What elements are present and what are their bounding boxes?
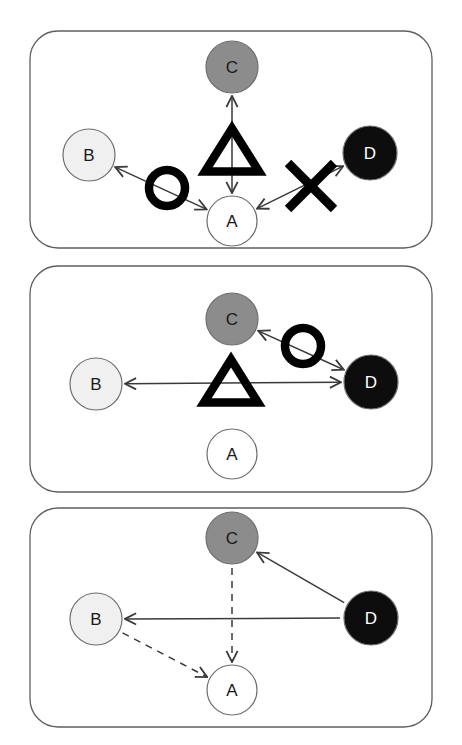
node-label: A	[226, 445, 238, 464]
node-label: D	[364, 144, 376, 163]
node-c[interactable]: C	[206, 512, 258, 564]
node-d[interactable]: D	[344, 591, 398, 645]
panel-3[interactable]: ABCD	[30, 508, 432, 727]
edge-d-b	[126, 618, 340, 619]
panel-2[interactable]: ABCD	[30, 266, 432, 492]
node-b[interactable]: B	[63, 129, 115, 181]
node-label: D	[365, 609, 377, 628]
node-label: B	[90, 610, 101, 629]
node-d[interactable]: D	[344, 355, 398, 409]
node-label: A	[226, 681, 238, 700]
panel-1[interactable]: ABCD	[30, 31, 432, 248]
node-label: D	[365, 373, 377, 392]
node-label: B	[90, 375, 101, 394]
node-a[interactable]: A	[207, 665, 257, 715]
node-c[interactable]: C	[206, 293, 258, 345]
node-label: B	[83, 146, 94, 165]
node-d[interactable]: D	[343, 126, 397, 180]
node-label: C	[226, 58, 238, 77]
panels-layer: ABCDABCDABCD	[30, 31, 432, 727]
node-b[interactable]: B	[70, 358, 122, 410]
node-label: A	[226, 212, 238, 231]
node-b[interactable]: B	[70, 593, 122, 645]
node-c[interactable]: C	[206, 41, 258, 93]
diagram-canvas: ABCDABCDABCD	[0, 0, 462, 745]
node-a[interactable]: A	[207, 196, 257, 246]
node-label: C	[226, 529, 238, 548]
node-label: C	[226, 310, 238, 329]
figure-root: ABCDABCDABCD	[0, 0, 462, 745]
node-a[interactable]: A	[207, 429, 257, 479]
